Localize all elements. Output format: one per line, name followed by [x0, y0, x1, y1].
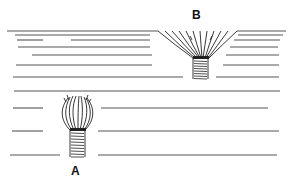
structure-a-stem-rings [71, 133, 84, 157]
structure-b-funnel [158, 31, 237, 79]
skin-follicle-diagram [0, 0, 299, 185]
label-a: A [71, 165, 80, 177]
skin-layer-lines [7, 31, 286, 155]
label-b: B [192, 9, 201, 21]
structure-a-bulb [62, 95, 93, 157]
structure-b-stem-rings [194, 61, 207, 79]
